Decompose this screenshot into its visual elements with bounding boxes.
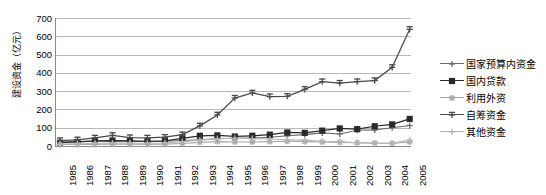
x-tick-label: 2003 xyxy=(382,165,393,186)
data-point-marker xyxy=(372,77,378,83)
legend-item[interactable]: 利用外资 xyxy=(440,89,546,106)
data-point-marker xyxy=(284,129,290,135)
line-chart: 建设资金（亿元） 7006005004003002001000 19851986… xyxy=(0,0,546,195)
legend-item[interactable]: 自筹资金 xyxy=(440,106,546,123)
legend-marker-icon xyxy=(440,109,464,121)
y-tick-label: 500 xyxy=(20,50,52,59)
x-tick-label: 2005 xyxy=(417,165,428,186)
x-tick-label: 1989 xyxy=(137,165,148,186)
data-point-marker xyxy=(267,94,273,100)
data-point-marker xyxy=(372,123,378,129)
data-point-marker xyxy=(449,111,455,117)
y-tick-label: 300 xyxy=(20,87,52,96)
data-point-marker xyxy=(407,26,413,32)
x-tick-label: 1992 xyxy=(189,165,200,186)
x-tick-label: 2002 xyxy=(364,165,375,186)
legend-marker-icon xyxy=(440,58,464,70)
legend-marker-icon xyxy=(440,92,464,104)
data-point-marker xyxy=(249,90,255,96)
legend-label: 自筹资金 xyxy=(464,107,506,122)
data-point-marker xyxy=(302,86,308,92)
data-point-marker xyxy=(449,60,455,66)
legend-item[interactable]: 国家预算内资金 xyxy=(440,55,546,72)
x-tick-label: 1987 xyxy=(102,165,113,186)
x-tick-label: 1995 xyxy=(242,165,253,186)
x-tick-label: 2004 xyxy=(399,165,410,186)
data-point-marker xyxy=(284,93,290,99)
data-point-marker xyxy=(319,128,325,134)
y-tick-label: 600 xyxy=(20,32,52,41)
y-tick-label: 200 xyxy=(20,105,52,114)
data-point-marker xyxy=(449,77,455,83)
data-point-marker xyxy=(354,126,360,132)
x-tick-label: 1998 xyxy=(294,165,305,186)
x-tick-label: 1986 xyxy=(84,165,95,186)
legend-item[interactable]: 其他资金 xyxy=(440,123,546,140)
data-point-marker xyxy=(407,122,413,128)
x-axis-tick-labels: 1985198619871988198919901991199219931994… xyxy=(55,148,410,194)
x-tick-label: 1988 xyxy=(119,165,130,186)
plot-area xyxy=(55,18,411,147)
data-point-marker xyxy=(407,116,413,122)
data-point-marker xyxy=(337,131,343,137)
x-tick-label: 1994 xyxy=(224,165,235,186)
x-tick-label: 1985 xyxy=(67,165,78,186)
data-point-marker xyxy=(214,112,220,118)
x-tick-label: 2000 xyxy=(329,165,340,186)
data-point-marker xyxy=(197,123,203,129)
x-tick-label: 1991 xyxy=(172,165,183,186)
legend-marker-icon xyxy=(440,75,464,87)
data-point-marker xyxy=(302,137,308,143)
y-tick-label: 0 xyxy=(20,142,52,151)
y-tick-label: 700 xyxy=(20,14,52,23)
x-tick-label: 1996 xyxy=(259,165,270,186)
x-tick-label: 1999 xyxy=(312,165,323,186)
data-point-marker xyxy=(449,128,455,134)
x-tick-label: 1993 xyxy=(207,165,218,186)
data-point-marker xyxy=(284,137,290,143)
legend-label: 国内贷款 xyxy=(464,73,506,88)
data-point-marker xyxy=(302,130,308,136)
legend-label: 其他资金 xyxy=(464,124,506,139)
data-point-marker xyxy=(337,125,343,131)
data-point-marker xyxy=(389,121,395,127)
data-point-marker xyxy=(337,80,343,86)
y-tick-label: 100 xyxy=(20,123,52,132)
x-tick-label: 2001 xyxy=(347,165,358,186)
legend-label: 利用外资 xyxy=(464,90,506,105)
series-layer xyxy=(56,18,411,146)
legend-item[interactable]: 国内贷款 xyxy=(440,72,546,89)
y-tick-label: 400 xyxy=(20,68,52,77)
x-tick-label: 1990 xyxy=(154,165,165,186)
data-point-marker xyxy=(319,79,325,85)
chart-legend: 国家预算内资金国内贷款利用外资自筹资金其他资金 xyxy=(440,55,546,140)
legend-label: 国家预算内资金 xyxy=(464,56,536,71)
legend-marker-icon xyxy=(440,126,464,138)
data-point-marker xyxy=(354,79,360,85)
y-axis-tick-labels: 7006005004003002001000 xyxy=(20,14,52,146)
x-tick-label: 1997 xyxy=(277,165,288,186)
series-line xyxy=(60,29,410,140)
data-point-marker xyxy=(449,94,455,100)
series-3 xyxy=(57,26,413,143)
